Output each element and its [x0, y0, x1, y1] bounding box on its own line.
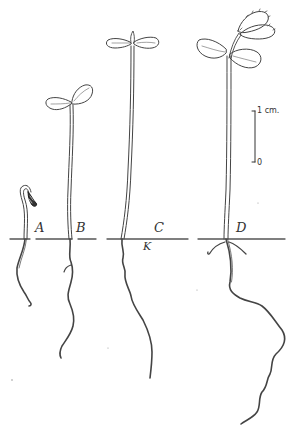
seedling-figure: A B C D K 1 cm. 0	[0, 0, 298, 431]
scale-bar	[252, 111, 255, 162]
seedling-c	[106, 31, 158, 378]
seedling-a	[17, 185, 37, 306]
specks	[11, 202, 258, 380]
scale-top-label: 1 cm.	[257, 107, 279, 115]
label-a: A	[35, 221, 44, 234]
label-k: K	[143, 241, 151, 252]
scale-bottom-label: 0	[257, 159, 262, 167]
label-d: D	[236, 221, 246, 234]
label-b: B	[76, 221, 86, 234]
seedling-drawing	[0, 0, 298, 431]
label-c: C	[154, 221, 164, 234]
seedling-d	[197, 9, 285, 424]
